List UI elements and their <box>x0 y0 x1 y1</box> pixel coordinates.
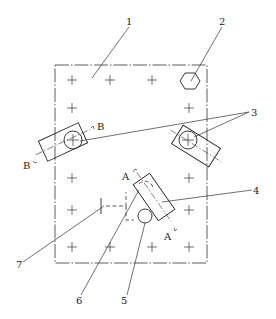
section-b-lower-mark <box>33 161 37 163</box>
section-label-b-upper: B <box>97 121 104 132</box>
leader-lines <box>23 27 252 295</box>
callout-2: 2 <box>219 16 225 27</box>
angled-clamp <box>129 167 180 231</box>
callout-6: 6 <box>76 295 82 306</box>
section-label-a-upper: A <box>121 171 130 182</box>
plate-outline <box>55 65 207 263</box>
section-a-lower-mark <box>174 228 177 231</box>
callout-3: 3 <box>251 107 257 118</box>
section-a-upper-mark <box>133 169 137 172</box>
hexagon-nut <box>180 73 200 89</box>
section-b-upper-mark <box>91 126 94 129</box>
technical-diagram: 1 2 3 4 5 6 7 B B A A <box>0 0 276 319</box>
callout-1: 1 <box>126 16 132 27</box>
round-pin <box>138 209 152 223</box>
callout-5: 5 <box>121 295 127 306</box>
section-label-a-lower: A <box>163 231 172 242</box>
callout-4: 4 <box>253 185 259 196</box>
cross-markers <box>67 75 194 252</box>
right-clamp-assembly <box>165 121 228 171</box>
dashed-stop <box>101 192 134 220</box>
left-clamp-assembly <box>31 119 95 164</box>
section-label-b-lower: B <box>23 160 30 171</box>
hidden-pin <box>139 181 153 188</box>
callout-7: 7 <box>16 259 22 270</box>
